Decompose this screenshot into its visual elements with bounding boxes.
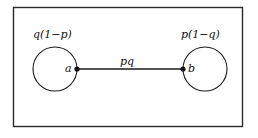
node-a-port-dot [74, 66, 79, 71]
node-b-port-dot [180, 66, 185, 71]
graph-figure: q(1−p) p(1−q) pq a b [0, 0, 258, 138]
graph-canvas [0, 0, 258, 138]
node-b-weight-label: p(1−q) [181, 29, 220, 40]
edge-weight-label: pq [120, 56, 134, 67]
node-b-vertex-label: b [188, 63, 195, 74]
node-a-weight-label: q(1−p) [33, 29, 72, 40]
node-a-vertex-label: a [65, 63, 72, 74]
